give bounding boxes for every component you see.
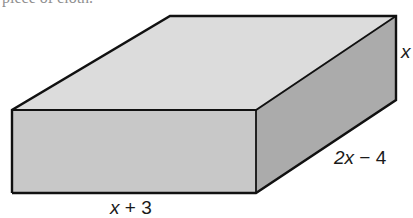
box-diagram (0, 0, 413, 218)
depth-label: 2x − 4 (334, 148, 386, 167)
front-face (12, 110, 256, 193)
width-label-variable: x (110, 197, 120, 218)
depth-label-variable: 2x (334, 147, 354, 168)
width-label-rest: + 3 (120, 197, 152, 218)
figure-canvas: piece of cloth. x 2x − 4 x + 3 (0, 0, 413, 218)
width-label: x + 3 (110, 198, 152, 217)
depth-label-rest: − 4 (354, 147, 386, 168)
height-label: x (401, 42, 411, 61)
height-label-variable: x (401, 41, 411, 62)
